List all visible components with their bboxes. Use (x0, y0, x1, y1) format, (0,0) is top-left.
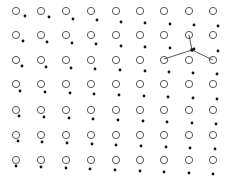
lattice-circle (160, 80, 167, 87)
highlighted-dot (190, 48, 194, 52)
lattice-circle (136, 131, 143, 138)
lattice-circle (185, 156, 192, 163)
displaced-dot (217, 50, 220, 53)
displaced-dot (44, 91, 47, 94)
displaced-dot (71, 42, 74, 45)
displaced-dot (92, 118, 95, 121)
lattice-circle (37, 156, 44, 163)
lattice-circle (87, 156, 94, 163)
lattice-circle (112, 131, 119, 138)
lattice-circle (136, 31, 143, 38)
displaced-dot (114, 169, 117, 172)
lattice-circle (209, 106, 216, 113)
lattice-circle (160, 7, 167, 14)
displaced-dot (68, 117, 71, 120)
lattice-circle (160, 106, 167, 113)
displaced-dot (43, 116, 46, 119)
displaced-dot (189, 147, 192, 150)
lattice-circle (62, 7, 69, 14)
lattice-diagram (0, 0, 231, 183)
displaced-dot (19, 90, 22, 93)
displaced-dot (165, 146, 168, 149)
lattice-circle (209, 7, 216, 14)
lattice-circle (136, 156, 143, 163)
lattice-circle (62, 156, 69, 163)
lattice-circle (12, 106, 19, 113)
displaced-dot (17, 140, 20, 143)
displaced-dot (119, 69, 122, 72)
displaced-dot (72, 18, 75, 21)
displaced-dot (193, 24, 196, 27)
lattice-circle (87, 7, 94, 14)
lattice-circle (185, 56, 192, 63)
connection-line (164, 50, 192, 59)
displaced-dot (120, 21, 123, 24)
lattice-circle (112, 106, 119, 113)
lattice-circle (12, 80, 19, 87)
displaced-dot (46, 41, 49, 44)
displaced-dot (70, 67, 73, 70)
lattice-circle (185, 131, 192, 138)
displaced-dot (94, 68, 97, 71)
lattice-circle (136, 80, 143, 87)
lattice-circle (160, 156, 167, 163)
lattice-circle (112, 31, 119, 38)
lattice-circle (12, 7, 19, 14)
displaced-dot (117, 119, 120, 122)
displaced-dot (40, 166, 43, 169)
lattice-circle (136, 56, 143, 63)
lattice-circle (209, 156, 216, 163)
lattice-circle (160, 56, 167, 63)
displaced-dot (66, 142, 69, 145)
displaced-dot (24, 15, 27, 18)
lattice-circle (37, 106, 44, 113)
lattice-circle (112, 56, 119, 63)
lattice-circle (37, 7, 44, 14)
displaced-dot (163, 171, 166, 174)
lattice-circle (185, 106, 192, 113)
displaced-dot (192, 97, 195, 100)
lattice-circle (136, 7, 143, 14)
displaced-dot (144, 22, 147, 25)
lattice-circle (112, 80, 119, 87)
displaced-dot (169, 47, 172, 50)
lattice-circle (136, 106, 143, 113)
lattice-circle (112, 7, 119, 14)
displaced-dot (95, 43, 98, 46)
displaced-dot (215, 123, 218, 126)
displaced-dot (144, 70, 147, 73)
displaced-dot (169, 23, 172, 26)
displaced-dot (191, 122, 194, 125)
lattice-circle (209, 31, 216, 38)
displaced-dot (168, 71, 171, 74)
lattice-circle (209, 80, 216, 87)
lattice-circle (37, 131, 44, 138)
displaced-dot (96, 19, 99, 22)
lattice-circle (62, 131, 69, 138)
lattice-circle (87, 56, 94, 63)
displaced-dot (142, 120, 145, 123)
displaced-dot (22, 40, 25, 43)
displaced-dot (144, 46, 147, 49)
displaced-dot (216, 73, 219, 76)
displaced-dot (41, 141, 44, 144)
displaced-dot (188, 172, 191, 175)
displaced-dot (15, 165, 18, 168)
lattice-circles (12, 7, 216, 163)
displaced-dot (21, 65, 24, 68)
displaced-dot (143, 95, 146, 98)
displaced-dot (118, 94, 121, 97)
displaced-dot (18, 115, 21, 118)
lattice-circle (87, 131, 94, 138)
lattice-circle (12, 56, 19, 63)
displaced-dot (120, 45, 123, 48)
displaced-dot (214, 148, 217, 151)
displaced-dot (139, 170, 142, 173)
lattice-circle (62, 106, 69, 113)
displaced-dot (45, 66, 48, 69)
lattice-circle (12, 156, 19, 163)
displaced-dot (91, 143, 94, 146)
lattice-canvas (0, 0, 231, 183)
lattice-circle (62, 56, 69, 63)
lattice-circle (37, 31, 44, 38)
